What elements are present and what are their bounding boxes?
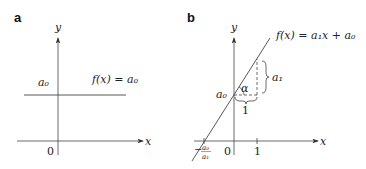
origin-label: 0 <box>47 145 54 158</box>
function-label: f(x) = a₁x + a₀ <box>275 29 356 42</box>
panel-a: a y x 0 a₀ f(x) = a₀ <box>14 10 152 158</box>
rise-brace <box>262 61 269 93</box>
panel-b: b y x 0 1 f(x) = a₁x + a₀ a₀ α 1 a₁ − a₀… <box>187 10 356 161</box>
angle-label: α <box>241 82 249 95</box>
intercept-label: a₀ <box>216 88 228 101</box>
run-label: 1 <box>242 104 249 117</box>
y-axis-label: y <box>230 21 238 34</box>
x-tick-label: 1 <box>254 145 261 158</box>
intercept-label: a₀ <box>38 76 50 89</box>
root-numerator: a₀ <box>202 144 209 152</box>
rise-label: a₁ <box>272 71 283 84</box>
function-label: f(x) = a₀ <box>91 73 139 86</box>
figure: a y x 0 a₀ f(x) = a₀ b y x 0 1 f(x) = a₁… <box>0 0 366 169</box>
x-axis-label: x <box>145 135 152 148</box>
run-brace <box>235 97 257 104</box>
origin-label: 0 <box>224 145 231 158</box>
x-axis-label: x <box>320 135 327 148</box>
panel-a-label: a <box>14 10 22 25</box>
root-denominator: a₁ <box>202 153 209 161</box>
y-axis-label: y <box>54 21 62 34</box>
panel-b-label: b <box>187 10 195 25</box>
